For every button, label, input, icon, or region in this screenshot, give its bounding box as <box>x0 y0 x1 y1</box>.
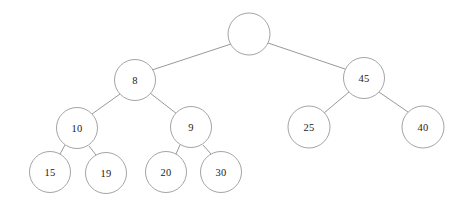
tree-node-n9[interactable]: 9 <box>171 107 212 148</box>
tree-edge-n45-to-n25 <box>324 92 349 113</box>
tree-node-n20[interactable]: 20 <box>146 152 187 193</box>
tree-edge-root-to-n8 <box>152 44 231 70</box>
node-label-n9: 9 <box>188 122 193 133</box>
node-label-n10: 10 <box>72 123 83 134</box>
tree-node-n19[interactable]: 19 <box>86 153 127 194</box>
node-circle-root[interactable] <box>228 13 270 55</box>
node-label-n19: 19 <box>101 168 112 179</box>
tree-node-n25[interactable]: 25 <box>288 106 330 148</box>
tree-nodes-group: 845109254015192030 <box>30 13 445 194</box>
tree-edge-n9-to-n20 <box>176 145 180 154</box>
tree-node-n30[interactable]: 30 <box>201 152 242 193</box>
tree-node-n8[interactable]: 8 <box>115 60 156 101</box>
tree-node-n10[interactable]: 10 <box>57 108 98 149</box>
node-label-n30: 30 <box>216 167 227 178</box>
node-label-n15: 15 <box>45 167 56 178</box>
tree-edge-n8-to-n9 <box>150 93 177 114</box>
tree-edge-n45-to-n40 <box>379 92 408 112</box>
tree-edge-n10-to-n15 <box>60 145 65 154</box>
node-label-n45: 45 <box>359 73 370 84</box>
tree-node-n40[interactable]: 40 <box>402 106 444 148</box>
tree-canvas: 845109254015192030 <box>0 0 465 209</box>
tree-node-n15[interactable]: 15 <box>30 152 71 193</box>
node-label-n20: 20 <box>161 167 172 178</box>
node-label-n25: 25 <box>304 122 315 133</box>
tree-edge-n10-to-n19 <box>89 146 96 155</box>
node-label-n8: 8 <box>132 75 137 86</box>
tree-node-root[interactable] <box>228 13 270 55</box>
tree-edge-n9-to-n30 <box>203 145 211 154</box>
tree-edge-n8-to-n10 <box>92 94 120 114</box>
tree-node-n45[interactable]: 45 <box>344 58 385 99</box>
binary-tree-diagram: 845109254015192030 <box>0 0 465 209</box>
tree-edge-root-to-n45 <box>268 43 345 69</box>
node-label-n40: 40 <box>418 122 429 133</box>
